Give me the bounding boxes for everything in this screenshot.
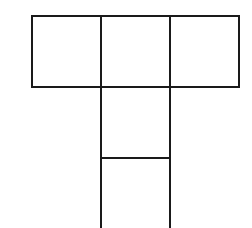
square-top-center [100, 15, 171, 88]
square-top-left [31, 15, 102, 88]
square-bottom [100, 157, 171, 228]
square-middle [100, 86, 171, 159]
square-top-right [169, 15, 240, 88]
